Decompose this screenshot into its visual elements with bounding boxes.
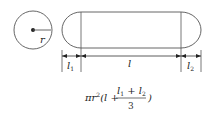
volume-formula: πr2(l + l1 + l2 3 ) [84, 85, 152, 111]
svg-text:3: 3 [128, 101, 134, 111]
dimension-lines [62, 50, 201, 72]
capsule-volume-diagram: r l1 l l2 πr2(l + l1 + l2 3 ) [0, 0, 211, 118]
l-label: l [128, 58, 131, 69]
capsule-shape [62, 12, 201, 72]
l2-label: l2 [187, 60, 194, 72]
circle-cross-section: r [14, 11, 52, 49]
dimension-labels: l1 l l2 [67, 58, 194, 72]
svg-text:πr2(l +: πr2(l + [84, 91, 119, 103]
svg-text:): ) [147, 92, 152, 103]
l1-label: l1 [67, 60, 74, 72]
radius-label: r [40, 34, 46, 45]
svg-text:l1 + l2: l1 + l2 [117, 85, 146, 97]
